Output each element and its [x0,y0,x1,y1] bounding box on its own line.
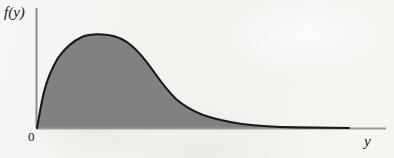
density-area-fill [37,34,349,128]
origin-tick-label: 0 [28,130,35,143]
x-axis-label: y [364,134,371,149]
density-plot-figure: f(y) y 0 [0,0,394,158]
y-axis-label: f(y) [4,5,25,20]
density-curve-plot [0,0,394,158]
